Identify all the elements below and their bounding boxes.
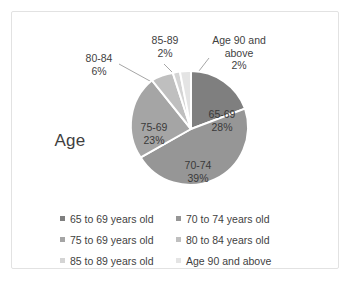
- legend-swatch-90-above: [176, 258, 181, 263]
- data-label-75-69-value: 23%: [128, 134, 180, 147]
- data-label-65-69-name: 65-69: [196, 108, 248, 121]
- data-label-75-69-name: 75-69: [128, 121, 180, 134]
- data-label-70-74-value: 39%: [172, 172, 224, 185]
- data-label-65-69: 65-69 28%: [196, 108, 248, 133]
- legend-item-65-69[interactable]: 65 to 69 years old: [60, 213, 176, 225]
- data-label-90-above-name2: above: [202, 47, 276, 60]
- legend-item-75-69[interactable]: 75 to 69 years old: [60, 234, 176, 246]
- legend-swatch-65-69: [60, 216, 65, 221]
- legend-row: 65 to 69 years old 70 to 74 years old: [12, 208, 340, 229]
- data-label-85-89: 85-89 2%: [141, 34, 189, 59]
- pie-chart-plot-area: Age 65-69 28% 70-74 39% 75-69 23% 80-84 …: [12, 12, 340, 270]
- legend-label-85-89: 85 to 89 years old: [70, 255, 153, 267]
- chart-frame: Age 65-69 28% 70-74 39% 75-69 23% 80-84 …: [11, 11, 339, 269]
- data-label-85-89-value: 2%: [141, 47, 189, 60]
- legend-label-90-above: Age 90 and above: [186, 255, 271, 267]
- data-label-90-above-value: 2%: [202, 59, 276, 72]
- legend-swatch-80-84: [176, 237, 181, 242]
- data-label-90-above: Age 90 and above 2%: [202, 34, 276, 72]
- legend-label-65-69: 65 to 69 years old: [70, 213, 153, 225]
- legend-label-70-74: 70 to 74 years old: [186, 213, 269, 225]
- data-label-75-69: 75-69 23%: [128, 121, 180, 146]
- chart-title: Age: [30, 131, 110, 151]
- data-label-80-84: 80-84 6%: [75, 52, 123, 77]
- data-label-80-84-value: 6%: [75, 65, 123, 78]
- data-label-70-74: 70-74 39%: [172, 159, 224, 184]
- legend-swatch-75-69: [60, 237, 65, 242]
- chart-legend: 65 to 69 years old 70 to 74 years old 75…: [12, 208, 340, 271]
- legend-item-70-74[interactable]: 70 to 74 years old: [176, 213, 292, 225]
- legend-item-80-84[interactable]: 80 to 84 years old: [176, 234, 292, 246]
- data-label-90-above-name: Age 90 and: [202, 34, 276, 47]
- legend-swatch-85-89: [60, 258, 65, 263]
- legend-label-75-69: 75 to 69 years old: [70, 234, 153, 246]
- legend-item-85-89[interactable]: 85 to 89 years old: [60, 255, 176, 267]
- data-label-70-74-name: 70-74: [172, 159, 224, 172]
- legend-item-90-above[interactable]: Age 90 and above: [176, 255, 292, 267]
- data-label-65-69-value: 28%: [196, 121, 248, 134]
- legend-row: 75 to 69 years old 80 to 84 years old: [12, 229, 340, 250]
- legend-swatch-70-74: [176, 216, 181, 221]
- data-label-85-89-name: 85-89: [141, 34, 189, 47]
- legend-row: 85 to 89 years old Age 90 and above: [12, 250, 340, 271]
- legend-label-80-84: 80 to 84 years old: [186, 234, 269, 246]
- data-label-80-84-name: 80-84: [75, 52, 123, 65]
